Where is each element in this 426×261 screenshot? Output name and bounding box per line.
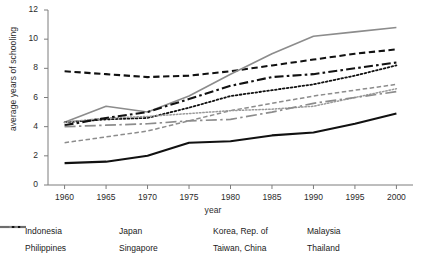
legend-label-thailand: Thailand <box>307 243 340 253</box>
chart-legend: IndonesiaJapanKorea, Rep. ofMalaysiaPhil… <box>0 222 426 256</box>
legend-label-indonesia: Indonesia <box>25 226 62 236</box>
legend-item-japan[interactable]: Japan <box>119 226 213 236</box>
legend-row-1: IndonesiaJapanKorea, Rep. ofMalaysia <box>0 222 426 239</box>
legend-item-malaysia[interactable]: Malaysia <box>307 226 401 236</box>
legend-item-indonesia[interactable]: Indonesia <box>25 226 119 236</box>
legend-label-singapore: Singapore <box>119 243 158 253</box>
chart-container: average years of schooling year 02468101… <box>0 0 426 261</box>
legend-item-taiwan-china[interactable]: Taiwan, China <box>213 243 307 253</box>
series-line-thailand <box>65 92 397 127</box>
legend-label-korea-rep-of: Korea, Rep. of <box>213 226 268 236</box>
series-line-indonesia <box>65 114 397 164</box>
legend-row-2: PhilippinesSingaporeTaiwan, ChinaThailan… <box>0 239 426 256</box>
legend-label-japan: Japan <box>119 226 142 236</box>
legend-item-singapore[interactable]: Singapore <box>119 243 213 253</box>
series-line-malaysia <box>65 84 397 142</box>
legend-label-malaysia: Malaysia <box>307 226 341 236</box>
legend-label-taiwan-china: Taiwan, China <box>213 243 266 253</box>
series-line-taiwan-china <box>65 63 397 126</box>
legend-item-korea-rep-of[interactable]: Korea, Rep. of <box>213 226 307 236</box>
series-line-japan <box>65 49 397 77</box>
legend-item-thailand[interactable]: Thailand <box>307 243 401 253</box>
legend-item-philippines[interactable]: Philippines <box>25 243 119 253</box>
legend-label-philippines: Philippines <box>25 243 66 253</box>
legend-swatch-thailand <box>0 222 26 232</box>
